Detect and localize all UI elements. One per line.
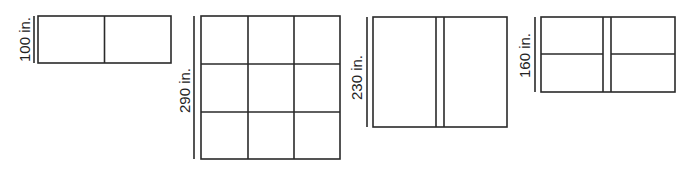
dimension-label: 290 in. [176, 68, 193, 113]
dimension-label: 160 in. [516, 33, 533, 78]
figure-a: 100 in. [16, 16, 171, 63]
figure-d: 160 in. [516, 17, 675, 92]
figure-b: 290 in. [176, 16, 340, 159]
outer-frame [373, 17, 507, 127]
figure-c: 230 in. [348, 17, 507, 127]
diagram-canvas: 100 in. 290 in. 230 in. 160 in. [0, 0, 689, 192]
outer-frame [201, 16, 340, 159]
dimension-label: 100 in. [16, 17, 33, 62]
dimension-label: 230 in. [348, 55, 365, 100]
